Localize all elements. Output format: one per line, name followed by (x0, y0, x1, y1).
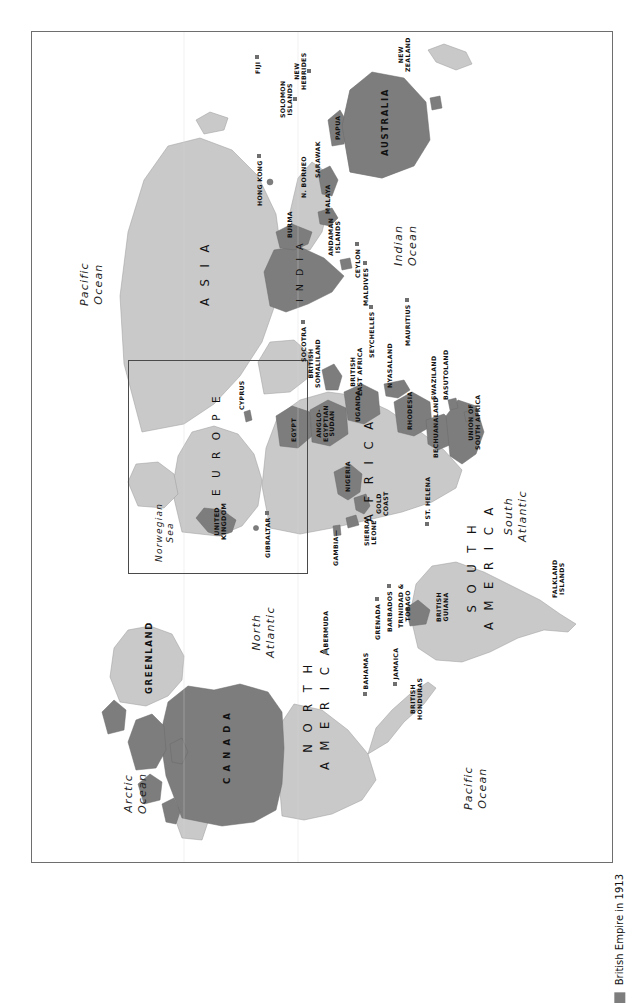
legend-dot (387, 585, 391, 589)
territory-label-falkland-islands: FALKLAND ISLANDS (552, 560, 565, 599)
territory-label-united-kingdom: UNITED KINGDOM (214, 503, 228, 540)
territory-label-bahamas: BAHAMAS (362, 653, 369, 696)
ocean-label-line1: Norwegian (154, 503, 165, 562)
map-rotated-canvas: Arctic Ocean Pacific Ocean North Atlanti… (32, 32, 612, 862)
ocean-label-line1: North (250, 606, 264, 658)
continent-label-line1: S O U T H (464, 504, 481, 630)
territory-label-fiji: FIJI (254, 55, 261, 74)
legend-dot (323, 650, 327, 654)
territory-label-union-of-south-africa: UNION OF SOUTH AFRICA (468, 395, 481, 450)
territory-label-north-borneo: N. BORNEO (300, 156, 307, 198)
legend-dot (369, 305, 373, 309)
territory-label-ceylon: CEYLON (354, 242, 361, 278)
map-figure-caption: MAP 7.1 (0, 832, 2, 886)
territory-label-andaman-islands: ANDAMAN ISLANDS (328, 218, 341, 256)
region-label-greenland: GREENLAND (144, 621, 154, 694)
ocean-label-line2: Ocean (406, 225, 420, 266)
territory-label-british-east-africa: BRITISH EAST AFRICA (350, 347, 363, 396)
continent-label-asia: A S I A (198, 241, 212, 306)
ocean-label-south-atlantic: South Atlantic (502, 490, 530, 542)
map-legend: British Empire in 1913 (614, 874, 625, 1003)
ocean-label-arctic-right: Pacific Ocean (78, 262, 106, 306)
ocean-label-line2: Atlantic (264, 606, 278, 658)
continent-label-africa: A F R I C A (362, 418, 376, 522)
legend-dot (301, 320, 305, 324)
territory-label-mauritius: MAURITIUS (404, 298, 411, 346)
legend-dot (363, 692, 367, 696)
legend-dot (265, 511, 269, 515)
legend-dot (363, 261, 367, 265)
territory-label-barbados: BARBADOS (386, 585, 393, 633)
legend-dot (405, 298, 409, 302)
territory-label-gambia: GAMBIA— (332, 530, 339, 566)
continent-label-line2: A M E R I C A (317, 644, 334, 770)
territory-label-st-helena: ST. HELENA (424, 477, 431, 526)
legend-swatch-british-empire (614, 992, 625, 1003)
territory-label-british-honduras: BRITISH HONDURAS (410, 678, 423, 720)
legend-dot (293, 97, 297, 101)
territory-label-rhodesia: RHODESIA (406, 391, 413, 430)
ocean-label-line1: Pacific (462, 766, 476, 810)
territory-label-socotra: SOCOTRA (300, 320, 307, 362)
territory-label-seychelles: SEYCHELLES (368, 305, 375, 358)
ocean-label-line1: South (502, 490, 516, 542)
legend-dot (393, 682, 397, 686)
territory-label-gibraltar: GIBRALTAR (264, 511, 271, 558)
legend-dot (257, 154, 261, 158)
legend-dot (255, 55, 259, 59)
territory-label-nyasaland: NYASALAND (386, 343, 393, 388)
ocean-label-line1: Indian (392, 225, 406, 266)
territory-label-nigeria: NIGERIA (344, 461, 351, 492)
legend-label-british-empire: British Empire in 1913 (614, 874, 625, 985)
legend-dot (307, 69, 311, 73)
ocean-label-line2: Ocean (476, 766, 490, 810)
territory-label-sierra-leone: SIERRA LEONE (364, 519, 377, 546)
continent-label-north-america: N O R T H A M E R I C A (300, 644, 335, 770)
territory-label-egypt: EGYPT (290, 418, 297, 442)
ocean-label-north-atlantic: North Atlantic (250, 606, 278, 658)
territory-label-maldives: MALDIVES (362, 261, 369, 306)
territory-label-british-somaliland: BRITISH SOMALILAND (308, 339, 321, 388)
territory-label-gold-coast: GOLD COAST (376, 491, 389, 516)
ocean-label-line2: Sea (165, 503, 176, 562)
region-label-australia: AUSTRALIA (380, 88, 390, 156)
ocean-label-arctic-left: Arctic Ocean (122, 773, 150, 814)
territory-label-anglo-egyptian-sudan: ANGLO- EGYPTIAN SUDAN (316, 405, 336, 442)
continent-label-south-america: S O U T H A M E R I C A (464, 504, 499, 630)
map-canvas: Arctic Ocean Pacific Ocean North Atlanti… (32, 32, 612, 862)
territory-label-sarawak: SARAWAK (314, 141, 321, 178)
ocean-label-line1: Pacific (78, 262, 92, 306)
region-label-india: I N D I A (294, 241, 305, 302)
territory-label-jamaica: JAMAICA (392, 648, 399, 686)
legend-dot (355, 242, 359, 246)
ocean-label-pacific-left: Pacific Ocean (462, 766, 490, 810)
ocean-label-line2: Ocean (136, 773, 150, 814)
region-label-canada: C A N A D A (222, 711, 232, 784)
territory-label-new-hebrides: NEW HEBRIDES (294, 53, 314, 90)
territory-label-cyprus: CYPRUS (238, 380, 245, 410)
territory-label-basutoland: BASUTOLAND (442, 349, 449, 400)
territory-label-hong-kong: HONG KONG (256, 154, 263, 206)
ocean-label-norwegian-sea: Norwegian Sea (154, 503, 177, 562)
territory-label-malaya: MALAYA (324, 184, 331, 214)
ocean-label-line2: Atlantic (516, 490, 530, 542)
territory-label-grenada: GRENADA (374, 597, 381, 640)
legend-dot (425, 522, 429, 526)
territory-label-swaziland: SWAZILAND (430, 356, 437, 400)
continent-label-line1: N O R T H (300, 644, 317, 770)
continent-label-line2: A M E R I C A (481, 504, 498, 630)
territory-label-papua: PAPUA (334, 116, 341, 140)
territory-label-new-zealand: NEW ZEALAND (398, 37, 411, 72)
territory-label-burma: BURMA (286, 211, 293, 238)
ocean-label-indian: Indian Ocean (392, 225, 420, 266)
territory-label-trinidad-tobago: TRINIDAD & TOBAGO (398, 584, 411, 628)
territory-label-british-guiana: BRITISH GUIANA (436, 592, 449, 622)
map-figure-frame: Arctic Ocean Pacific Ocean North Atlanti… (31, 31, 613, 863)
ocean-label-line2: Ocean (92, 262, 106, 306)
ocean-label-line1: Arctic (122, 773, 136, 814)
legend-dot (375, 597, 379, 601)
territory-label-bechuanaland: BECHUANALAND (432, 397, 439, 458)
territory-label-bermuda: BERMUDA (322, 611, 329, 654)
continent-label-europe: E U R O P E (210, 392, 222, 496)
